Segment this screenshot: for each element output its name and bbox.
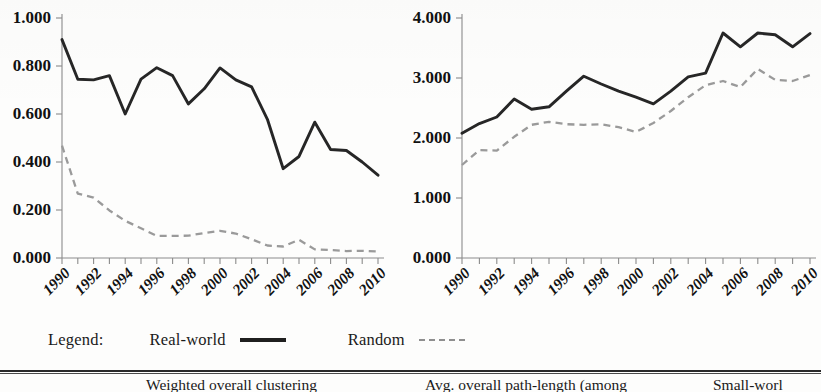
- chart-legend: Legend: Real-world Random: [0, 326, 821, 364]
- x-tick-label: 1998: [166, 264, 200, 298]
- chart-svg-left: 0.0000.2000.4000.6000.8001.000 199019921…: [0, 0, 410, 325]
- y-tick-label: 0.400: [13, 152, 51, 171]
- legend-title: Legend:: [48, 330, 103, 350]
- x-tick-label: 2002: [647, 264, 682, 299]
- y-tick-label: 0.000: [13, 248, 51, 267]
- x-tick-label: 2004: [682, 264, 717, 299]
- x-tick-label: 1998: [578, 264, 612, 298]
- series-line-real-world-right: [462, 33, 810, 133]
- x-tick-label: 2000: [612, 264, 647, 299]
- y-axis-right: 0.0001.0002.0003.0004.000: [413, 8, 462, 267]
- y-axis-left: 0.0000.2000.4000.6000.8001.000: [13, 8, 62, 267]
- table-rule-under: [0, 373, 821, 374]
- x-axis-right: [462, 258, 810, 264]
- y-tick-label: 1.000: [413, 188, 451, 207]
- y-tick-label: 1.000: [13, 8, 51, 27]
- series-line-real-world-left: [62, 40, 378, 176]
- legend-entry-real-world: Real-world: [149, 330, 285, 350]
- chart-panel-weighted-overall-clustering: 0.0000.2000.4000.6000.8001.000 199019921…: [0, 0, 410, 325]
- x-tick-label: 2006: [717, 264, 752, 299]
- x-tick-label: 2006: [291, 264, 326, 299]
- x-tick-label: 2008: [323, 264, 358, 299]
- table-column-header-1: Weighted overall clustering: [146, 376, 317, 392]
- table-column-header-2: Avg. overall path-length (among: [425, 376, 627, 392]
- legend-label-random: Random: [348, 330, 405, 350]
- x-tick-labels-right: 1990199219941996199820002002200420062008…: [439, 264, 821, 299]
- y-tick-label: 3.000: [413, 68, 451, 87]
- figure-root: 0.0000.2000.4000.6000.8001.000 199019921…: [0, 0, 821, 392]
- legend-swatch-solid-line: [240, 338, 286, 342]
- y-tick-label: 2.000: [413, 128, 451, 147]
- x-tick-label: 2004: [260, 264, 295, 299]
- x-tick-label: 2000: [196, 264, 231, 299]
- y-tick-label: 0.600: [13, 104, 51, 123]
- x-tick-label: 2010: [354, 264, 389, 299]
- x-tick-label: 1996: [544, 264, 578, 298]
- series-line-random-right: [462, 69, 810, 165]
- x-tick-label: 2010: [786, 264, 821, 299]
- legend-entry-random: Random: [348, 330, 465, 350]
- table-header-row: Weighted overall clustering Avg. overall…: [0, 376, 821, 392]
- x-tick-label: 1996: [134, 264, 168, 298]
- table-rule-top: [0, 370, 821, 372]
- legend-label-real-world: Real-world: [149, 330, 225, 350]
- y-tick-label: 0.000: [413, 248, 451, 267]
- x-tick-label: 1992: [71, 264, 105, 298]
- table-header-strip: Weighted overall clustering Avg. overall…: [0, 366, 821, 392]
- x-tick-label: 1992: [474, 264, 508, 298]
- x-tick-label: 2008: [752, 264, 787, 299]
- series-line-random-left: [62, 146, 378, 252]
- chart-svg-right: 0.0001.0002.0003.0004.000 19901992199419…: [411, 0, 821, 325]
- x-tick-label: 1994: [102, 264, 136, 298]
- x-tick-label: 1990: [439, 264, 473, 298]
- x-tick-labels-left: 1990199219941996199820002002200420062008…: [39, 264, 389, 299]
- x-tick-label: 2002: [228, 264, 263, 299]
- chart-panel-avg-overall-path-length: 0.0001.0002.0003.0004.000 19901992199419…: [411, 0, 821, 325]
- x-axis-left: [62, 258, 378, 264]
- y-tick-label: 0.800: [13, 56, 51, 75]
- legend-swatch-dashed-line: [419, 339, 465, 341]
- x-tick-label: 1994: [509, 264, 543, 298]
- table-column-header-3: Small-worl: [713, 376, 783, 392]
- x-tick-label: 1990: [39, 264, 73, 298]
- y-tick-label: 4.000: [413, 8, 451, 27]
- y-tick-label: 0.200: [13, 200, 51, 219]
